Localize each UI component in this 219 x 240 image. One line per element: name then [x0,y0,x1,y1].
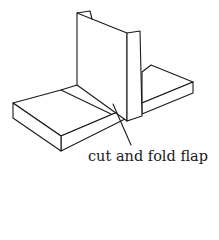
annotation-label: cut and fold flap [88,148,208,164]
right-block [142,65,193,114]
